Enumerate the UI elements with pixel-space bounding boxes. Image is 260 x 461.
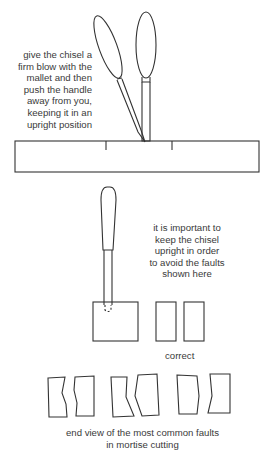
correct-label: correct (165, 350, 194, 362)
middle-chisel-blade (104, 250, 112, 305)
step-caption-line: push the handle (0, 84, 92, 96)
upright-caption-line: to avoid the faults (134, 257, 240, 269)
upright-chisel-blade (142, 82, 150, 141)
correct-shape-left (156, 302, 176, 341)
upright-chisel (136, 12, 156, 141)
step-caption-line: mallet and then (0, 72, 92, 84)
workpiece (15, 141, 259, 172)
faults-caption-line: in mortise cutting (40, 439, 245, 451)
step-caption-line: upright position (0, 119, 92, 131)
upright-chisel-middle (101, 187, 116, 312)
fault-pair-3 (177, 374, 230, 414)
step-caption: give the chisel a firm blow with the mal… (0, 49, 92, 130)
upright-caption-line: shown here (134, 268, 240, 280)
upright-caption-line: keep the chisel (134, 234, 240, 246)
fault-pair-2 (111, 374, 159, 417)
middle-chisel-tip (105, 305, 111, 312)
faults-caption: end view of the most common faults in mo… (40, 427, 245, 450)
upright-caption: it is important to keep the chisel uprig… (134, 222, 240, 280)
tilted-chisel-handle (88, 13, 127, 81)
tilted-chisel-blade (117, 79, 145, 142)
fault-pair-1 (48, 376, 94, 417)
step-caption-line: keeping it in an (0, 107, 92, 119)
faults-caption-line: end view of the most common faults (40, 427, 245, 439)
step-caption-line: away from you, (0, 95, 92, 107)
upright-caption-line: it is important to (134, 222, 240, 234)
workpiece-rect (15, 141, 259, 172)
upright-chisel-handle (136, 12, 156, 78)
correct-shape-right (184, 302, 204, 341)
upright-caption-line: upright in order (134, 245, 240, 257)
mortise-block (93, 302, 138, 341)
step-caption-line: give the chisel a (0, 49, 92, 61)
middle-chisel-handle (101, 187, 116, 250)
step-caption-line: firm blow with the (0, 61, 92, 73)
